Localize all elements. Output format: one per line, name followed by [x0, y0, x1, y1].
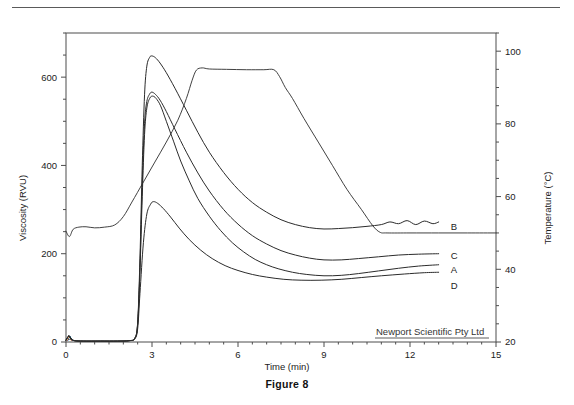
y2-tick-label: 80	[505, 118, 516, 129]
x-tick-label: 12	[405, 349, 416, 360]
series-line-c	[66, 92, 439, 341]
x-tick-label: 0	[63, 349, 68, 360]
y-tick-label: 600	[41, 72, 57, 83]
x-tick-label: 15	[491, 349, 502, 360]
y2-tick-label: 20	[505, 336, 516, 347]
figure-caption: Figure 8	[0, 378, 574, 390]
series-line-temperature	[66, 68, 496, 237]
chart-svg: 02004006002040608010003691215 ABCD Time …	[0, 0, 574, 375]
y2-tick-label: 100	[505, 46, 521, 57]
series-label-d: D	[451, 280, 458, 291]
x-axis-title: Time (min)	[264, 361, 309, 372]
x-tick-label: 6	[235, 349, 240, 360]
y2-tick-label: 40	[505, 264, 516, 275]
y-tick-label: 200	[41, 248, 57, 259]
series-labels: ABCD	[451, 221, 458, 291]
y-tick-label: 400	[41, 160, 57, 171]
watermark-label: Newport Scientific Pty Ltd	[376, 326, 484, 337]
series-label-b: B	[451, 221, 457, 232]
rva-viscogram-chart: 02004006002040608010003691215 ABCD Time …	[0, 0, 574, 375]
series-label-c: C	[451, 250, 458, 261]
y-tick-label: 0	[52, 336, 57, 347]
y2-tick-label: 60	[505, 191, 516, 202]
figure-page: 02004006002040608010003691215 ABCD Time …	[0, 0, 574, 405]
series-line-b	[66, 56, 439, 341]
series-label-a: A	[451, 264, 458, 275]
y2-axis-title: Temperature (°C)	[542, 172, 553, 245]
axis-tick-labels: 02004006002040608010003691215	[41, 46, 521, 360]
series-line-d	[66, 202, 439, 342]
x-tick-label: 3	[149, 349, 154, 360]
origin-annotation-a: A	[67, 334, 73, 343]
data-series	[66, 56, 496, 341]
watermark-group: Newport Scientific Pty Ltd	[375, 326, 489, 338]
y-axis-title: Viscosity (RVU)	[17, 175, 28, 241]
x-tick-label: 9	[321, 349, 326, 360]
